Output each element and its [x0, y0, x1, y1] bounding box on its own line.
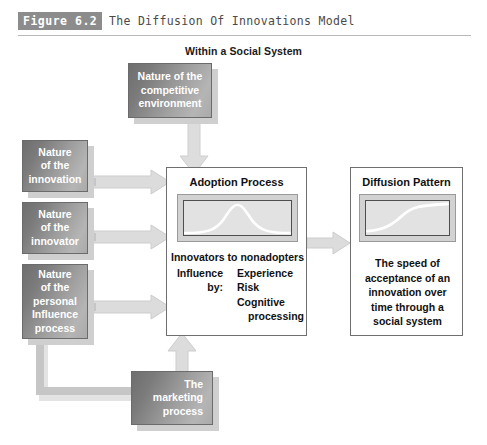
connector-adoption-to-diffusion: [307, 232, 351, 256]
influence-label-line-1: Influence: [167, 266, 229, 281]
adoption-factor-2: Risk: [237, 280, 308, 295]
node-nature-of-innovation[interactable]: Nature of the innovation: [22, 140, 88, 192]
panel-title-diffusion-pattern: Diffusion Pattern: [351, 176, 462, 188]
connector-personal-influence-to-adoption: [93, 295, 171, 321]
panel-adoption-process[interactable]: Adoption Process Innovators to nonadopte…: [166, 167, 307, 336]
adoption-factor-1: Experience: [237, 266, 308, 281]
node-line-2: of the: [32, 281, 78, 295]
influence-label-line-2: by:: [167, 280, 229, 295]
grid-spacer-2: [167, 309, 229, 324]
figure-diffusion-of-innovations: Figure 6.2 The Diffusion Of Innovations …: [0, 0, 487, 445]
adoption-factor-4: processing: [237, 309, 308, 324]
box-face: Nature of the innovation: [22, 140, 88, 192]
connector-innovator-to-adoption: [93, 225, 171, 251]
chart-plot-area: [183, 200, 292, 236]
node-line-3: innovator: [31, 235, 79, 249]
box-face: Nature of the competitive environment: [128, 63, 212, 118]
box-face: Nature of the personal Influence process: [22, 264, 88, 339]
adoption-factor-3: Cognitive: [237, 295, 308, 310]
diagram-subtitle: Within a Social System: [0, 45, 487, 57]
node-line-3: personal: [32, 295, 78, 309]
chart-plot-area: [365, 200, 450, 236]
node-line-2: of the: [28, 159, 81, 173]
adoption-heading: Innovators to nonadopters: [167, 250, 308, 265]
node-line-4: Influence: [32, 308, 78, 322]
figure-number-badge: Figure 6.2: [18, 12, 102, 30]
diffusion-line-1: The speed of: [351, 256, 464, 271]
node-line-5: process: [32, 322, 78, 336]
diffusion-line-5: social system: [351, 314, 464, 329]
diffusion-line-3: innovation over: [351, 285, 464, 300]
node-personal-influence-process[interactable]: Nature of the personal Influence process: [22, 264, 88, 339]
node-nature-of-innovator[interactable]: Nature of the innovator: [22, 202, 88, 254]
node-competitive-environment[interactable]: Nature of the competitive environment: [128, 63, 212, 118]
grid-spacer-1: [167, 295, 229, 310]
node-line-1: Nature: [31, 208, 79, 222]
diffusion-pattern-body: The speed of acceptance of an innovation…: [351, 256, 464, 329]
node-line-3: innovation: [28, 173, 81, 187]
chart-adoption-curve: [177, 194, 298, 242]
panel-diffusion-pattern[interactable]: Diffusion Pattern The speed of acceptanc…: [350, 167, 463, 336]
node-line-3: environment: [138, 97, 203, 111]
header-divider: [18, 35, 471, 36]
box-face: The marketing process: [131, 371, 213, 425]
box-face: Nature of the innovator: [22, 202, 88, 254]
figure-header: Figure 6.2 The Diffusion Of Innovations …: [18, 12, 473, 34]
node-line-2: competitive: [138, 84, 203, 98]
node-line-1: The: [153, 378, 203, 392]
figure-title: The Diffusion Of Innovations Model: [109, 12, 355, 30]
node-line-1: Nature of the: [138, 70, 203, 84]
node-line-1: Nature: [28, 146, 81, 160]
diffusion-line-4: time through a: [351, 300, 464, 315]
node-line-2: marketing: [153, 391, 203, 405]
panel-title-adoption-process: Adoption Process: [167, 176, 306, 188]
elbow-personal-influence-vertical: [36, 338, 44, 394]
node-line-2: of the: [31, 221, 79, 235]
node-line-1: Nature: [32, 268, 78, 282]
diffusion-line-2: acceptance of an: [351, 271, 464, 286]
elbow-personal-influence-horizontal: [36, 387, 131, 395]
chart-diffusion-curve: [359, 194, 456, 242]
node-marketing-process[interactable]: The marketing process: [131, 371, 213, 425]
adoption-process-body: Innovators to nonadopters Influence Expe…: [167, 250, 308, 324]
node-line-3: process: [153, 405, 203, 419]
connector-innovation-to-adoption: [93, 170, 171, 196]
adoption-influence-grid: Influence Experience by: Risk Cognitive …: [167, 266, 308, 324]
